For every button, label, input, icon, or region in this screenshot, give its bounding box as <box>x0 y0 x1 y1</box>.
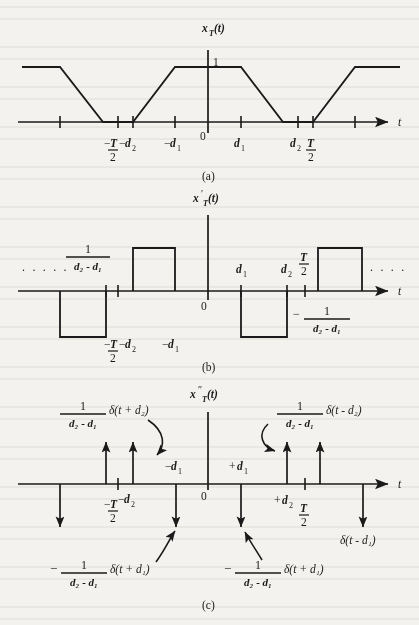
d-subscript-2: 2 <box>132 144 136 153</box>
half-denominator: 2 <box>301 516 307 528</box>
d-subscript-1: 1 <box>243 270 247 279</box>
d-subscript-1: 1 <box>175 345 179 354</box>
panel-c-tick-label-pos-d1: + d 1 <box>229 460 248 476</box>
fraction-numerator: 1 <box>324 304 330 318</box>
T-symbol: T <box>110 338 118 350</box>
d-symbol: d <box>237 460 243 472</box>
d-subscript-1: 1 <box>178 467 182 476</box>
panel-c-title: x ″ T (t) <box>189 384 218 404</box>
d-subscript-2: 2 <box>131 500 135 509</box>
panel-b-tick-label-neg-T-over-2: − T 2 <box>104 338 118 364</box>
panel-a-waveform <box>22 67 400 122</box>
panel-b-title-arg: (t) <box>208 192 219 205</box>
panel-b-title: x ′ T (t) <box>192 188 219 208</box>
panel-c-annotation-far-right-delta: δ(t - d₁) <box>340 534 376 547</box>
d-symbol: d <box>125 137 131 149</box>
panel-a-tick-label-neg-d2: − d 2 <box>119 137 136 153</box>
panel-a-origin-label: 0 <box>200 130 206 142</box>
d-subscript-2: 2 <box>289 501 293 510</box>
panel-c-title-prime: ″ <box>198 384 202 395</box>
d-symbol: d <box>234 137 240 149</box>
panel-c: x ″ T (t) t 0 <box>18 384 402 612</box>
panel-a-title: x T (t) <box>201 22 225 38</box>
delta-expression: δ(t - d₂) <box>326 404 362 417</box>
panel-b-title-prime: ′ <box>201 188 203 199</box>
panel-c-annotation-right-delta-minus-d2: 1 d₂ - d₁ δ(t - d₂) <box>277 399 362 429</box>
panel-a-tick-label-d2: d 2 <box>290 137 301 153</box>
panel-c-tick-label-neg-d2: − d 2 <box>118 493 135 509</box>
T-symbol: T <box>110 498 118 510</box>
d-symbol: d <box>171 460 177 472</box>
d-subscript-2: 2 <box>288 270 292 279</box>
panel-b-origin-label: 0 <box>201 300 207 312</box>
d-symbol: d <box>290 137 296 149</box>
d-symbol: d <box>282 494 288 506</box>
half-denominator: 2 <box>110 352 116 364</box>
panel-a-tick-label-neg-d1: − d 1 <box>164 137 181 153</box>
T-symbol: T <box>110 137 118 149</box>
figure-container: x T (t) t 1 0 − T 2 <box>0 0 419 625</box>
panel-c-origin-label: 0 <box>201 490 207 502</box>
negative-sign: − <box>293 307 300 321</box>
delta-expression: δ(t + d₁) <box>110 563 150 576</box>
panel-a-tick-label-T-over-2: T 2 <box>306 137 316 163</box>
panel-b-pulse-negative-left <box>60 291 106 337</box>
panel-a-title-arg: (t) <box>214 22 225 35</box>
panel-c-title-base: x <box>189 388 196 400</box>
T-symbol: T <box>307 137 315 149</box>
d-subscript-1: 1 <box>241 144 245 153</box>
panel-b-pulse-negative-right <box>241 291 287 337</box>
d-symbol: d <box>124 493 130 505</box>
panel-c-arrow-left-bottom <box>156 531 175 562</box>
T-symbol: T <box>300 251 308 263</box>
fraction-denominator: d₂ - d₁ <box>74 260 102 272</box>
d-subscript-2: 2 <box>132 345 136 354</box>
d-subscript-1: 1 <box>244 467 248 476</box>
panel-c-arrow-right-top <box>262 424 275 451</box>
fraction-numerator: 1 <box>85 242 91 256</box>
fraction-denominator: d₂ - d₁ <box>244 576 272 588</box>
panel-a-title-base: x <box>201 22 208 34</box>
delta-expression: δ(t + d₁) <box>284 563 324 576</box>
half-denominator: 2 <box>110 512 116 524</box>
fraction-denominator: d₂ - d₁ <box>69 417 97 429</box>
panel-c-tick-label-neg-d1: − d 1 <box>165 460 182 476</box>
panel-b-axis-label: t <box>398 285 402 297</box>
panel-b-tag: (b) <box>202 361 216 374</box>
panel-b: x ′ T (t) t 0 . . . . . . . . . <box>18 188 406 374</box>
panel-b-level-positive-label: 1 d₂ - d₁ <box>66 242 110 272</box>
panel-b-tick-label-d2: d 2 <box>281 263 292 279</box>
fraction-numerator: 1 <box>297 399 303 413</box>
fraction-denominator: d₂ - d₁ <box>286 417 314 429</box>
panel-c-tick-label-T-over-2: T 2 <box>299 502 309 528</box>
fraction-numerator: 1 <box>81 558 87 572</box>
panel-c-tag: (c) <box>202 599 215 612</box>
panel-a-tick-label-d1: d 1 <box>234 137 245 153</box>
panel-b-pulse-positive-left <box>133 248 175 291</box>
d-symbol: d <box>281 263 287 275</box>
panel-b-tick-label-neg-d2: − d 2 <box>119 338 136 354</box>
fraction-numerator: 1 <box>255 558 261 572</box>
panel-c-arrow-left-top <box>148 420 162 455</box>
panel-b-ellipsis-right: . . . . <box>370 260 406 274</box>
panel-a-axis-label: t <box>398 116 402 128</box>
panel-b-tick-label-T-over-2: T 2 <box>299 251 309 277</box>
panel-c-annotation-left-delta-plus-d2: 1 d₂ - d₁ δ(t + d₂) <box>60 399 149 429</box>
panel-b-pulse-positive-right <box>318 248 362 291</box>
fraction-denominator: d₂ - d₁ <box>313 322 341 334</box>
panel-a: x T (t) t 1 0 − T 2 <box>18 22 402 183</box>
half-denominator: 2 <box>308 151 314 163</box>
plus-sign: + <box>229 460 236 472</box>
panel-c-annotation-left-neg-delta-plus-d1: − 1 d₂ - d₁ δ(t + d₁) <box>50 558 150 588</box>
delta-expression: δ(t + d₂) <box>109 404 149 417</box>
d-symbol: d <box>125 338 131 350</box>
panel-c-title-arg: (t) <box>207 388 218 401</box>
panel-b-ellipsis-left: . . . . . <box>22 260 69 274</box>
negative-sign: − <box>50 561 57 576</box>
panel-a-tick-label-neg-T-over-2: − T 2 <box>104 137 118 163</box>
d-symbol: d <box>168 338 174 350</box>
plus-sign: + <box>274 494 281 506</box>
half-denominator: 2 <box>110 151 116 163</box>
panel-b-level-negative-label: − 1 d₂ - d₁ <box>293 304 350 334</box>
T-symbol: T <box>300 502 308 514</box>
